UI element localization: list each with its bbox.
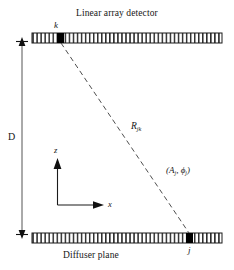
diffuser-point-label-j: j <box>188 246 191 255</box>
diagram-graphics <box>0 0 234 270</box>
page-title: Linear array detector <box>76 9 158 19</box>
detector-point-label-k: k <box>54 21 58 30</box>
diffuser-element-j-marker <box>186 233 193 243</box>
amp-open-paren: (A <box>166 165 175 175</box>
distance-dimension-line <box>16 37 28 239</box>
ray-label-rjk: Rjk <box>131 122 141 132</box>
ray-label-subscript: jk <box>137 125 142 132</box>
z-axis-label: z <box>54 146 57 155</box>
figure-canvas: Linear array detector k j D Rjk (Aj, ϕj)… <box>0 0 234 270</box>
amp-close-paren: ) <box>187 165 190 175</box>
diffuser-bar <box>32 233 222 243</box>
detector-element-k-marker <box>57 33 64 43</box>
x-axis-arrowhead <box>93 201 104 209</box>
coordinate-axes <box>54 158 104 209</box>
distance-label-d: D <box>8 132 15 142</box>
bottom-caption: Diffuser plane <box>63 251 119 261</box>
z-axis-arrowhead <box>54 158 62 169</box>
amplitude-phase-label: (Aj, ϕj) <box>166 166 190 177</box>
x-axis-label: x <box>108 200 112 209</box>
